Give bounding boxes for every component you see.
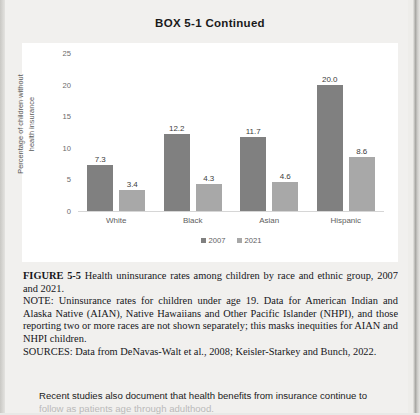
body-line-2-clipped: follow as patients age through adulthood… (39, 402, 391, 415)
bar-rect[interactable] (87, 165, 113, 211)
y-axis-title: Percentage of children without health in… (16, 51, 48, 197)
caption-figure-line: FIGURE 5-5 Health uninsurance rates amon… (23, 270, 398, 295)
y-tick-label: 20 (63, 80, 71, 89)
y-tick-label: 15 (63, 112, 71, 121)
bar-rect[interactable] (272, 182, 298, 211)
legend-item-2021[interactable]: 2021 (237, 236, 262, 245)
y-axis-title-line-1: Percentage of children without (16, 51, 27, 197)
bar-group-white: 7.33.4 (78, 53, 155, 211)
bar-value-label: 8.6 (356, 147, 367, 156)
bar-rect[interactable] (349, 157, 375, 211)
bar-value-label: 7.3 (95, 155, 106, 164)
bar-value-label: 3.4 (127, 180, 138, 189)
chart-panel: Percentage of children without health in… (22, 43, 398, 262)
legend-swatch-icon (237, 238, 242, 243)
figure-number: FIGURE 5-5 (23, 270, 81, 281)
box-title: BOX 5-1 Continued (0, 17, 420, 29)
bar-value-label: 12.2 (169, 124, 185, 133)
x-tick-label-hispanic: Hispanic (308, 216, 385, 225)
chart-legend: 20072021 (78, 236, 384, 245)
bar-value-label: 4.6 (280, 172, 291, 181)
y-tick-label: 10 (63, 143, 71, 152)
plot-area: 0510152025 7.33.412.24.311.74.620.08.6 (78, 53, 384, 211)
bar-black-2007[interactable]: 12.2 (164, 53, 190, 211)
bar-group-hispanic: 20.08.6 (308, 53, 385, 211)
bar-rect[interactable] (119, 190, 145, 211)
y-tick-label: 0 (67, 207, 71, 216)
y-tick-label: 5 (67, 175, 71, 184)
page-right-edge (408, 0, 420, 413)
x-tick-label-asian: Asian (231, 216, 308, 225)
bar-asian-2007[interactable]: 11.7 (240, 53, 266, 211)
bar-groups: 7.33.412.24.311.74.620.08.6 (78, 53, 384, 211)
x-tick-label-black: Black (155, 216, 232, 225)
bar-value-label: 4.3 (203, 174, 214, 183)
bar-white-2007[interactable]: 7.3 (87, 53, 113, 211)
bar-value-label: 11.7 (246, 127, 261, 136)
legend-label: 2021 (245, 236, 262, 245)
bar-hispanic-2021[interactable]: 8.6 (349, 53, 375, 211)
caption-note: NOTE: Uninsurance rates for children und… (23, 295, 398, 345)
bar-black-2021[interactable]: 4.3 (196, 53, 222, 211)
bar-rect[interactable] (240, 137, 266, 211)
x-axis-labels: WhiteBlackAsianHispanic (78, 216, 384, 225)
caption-sources: SOURCES: Data from DeNavas-Walt et al., … (23, 346, 398, 359)
x-axis-line (78, 211, 384, 212)
body-paragraph: Recent studies also document that health… (39, 389, 391, 415)
body-line-1: Recent studies also document that health… (39, 389, 391, 402)
legend-swatch-icon (201, 238, 206, 243)
bar-rect[interactable] (317, 85, 343, 211)
y-tick-label: 25 (63, 49, 71, 58)
legend-item-2007[interactable]: 2007 (201, 236, 226, 245)
x-tick-label-white: White (78, 216, 155, 225)
bar-rect[interactable] (164, 134, 190, 211)
bar-group-black: 12.24.3 (155, 53, 232, 211)
bar-white-2021[interactable]: 3.4 (119, 53, 145, 211)
figure-caption: FIGURE 5-5 Health uninsurance rates amon… (23, 270, 398, 358)
bar-hispanic-2007[interactable]: 20.0 (317, 53, 343, 211)
bar-value-label: 20.0 (322, 75, 338, 84)
bar-rect[interactable] (196, 184, 222, 211)
bar-asian-2021[interactable]: 4.6 (272, 53, 298, 211)
y-axis-title-line-2: health insurance (27, 51, 38, 197)
bar-group-asian: 11.74.6 (231, 53, 308, 211)
legend-label: 2007 (209, 236, 226, 245)
page-left-edge (0, 0, 5, 413)
